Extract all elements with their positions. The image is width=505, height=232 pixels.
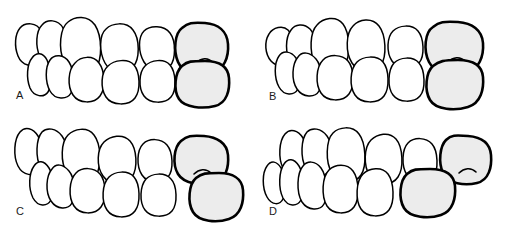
panel-b-drawing — [253, 0, 505, 116]
panel-d-label: D — [269, 206, 277, 217]
lower-tooth-3 — [298, 162, 326, 209]
lower-tooth-5 — [357, 169, 393, 216]
lower-tooth-4 — [351, 57, 388, 102]
lower-shaded-molar — [189, 173, 243, 221]
panel-d: D — [253, 116, 505, 232]
lower-tooth-4 — [103, 172, 139, 217]
lower-tooth-5 — [141, 174, 176, 216]
lower-tooth-5 — [140, 61, 175, 103]
lower-tooth-3 — [70, 169, 105, 213]
panel-c: C — [0, 116, 252, 232]
lower-tooth-4 — [102, 61, 139, 104]
lower-shaded-molar — [175, 61, 229, 108]
panel-b-label: B — [269, 91, 277, 102]
panel-c-drawing — [0, 116, 252, 232]
lower-shaded-molar — [400, 169, 455, 217]
lower-tooth-5 — [389, 58, 424, 101]
lower-tooth-3 — [69, 57, 104, 102]
panel-a-label: A — [16, 90, 24, 101]
lower-tooth-3 — [317, 56, 353, 100]
panel-c-label: C — [16, 206, 24, 217]
panel-d-drawing — [253, 116, 505, 232]
panel-a-drawing — [0, 0, 252, 116]
lower-tooth-4 — [323, 165, 358, 213]
panel-b: B — [253, 0, 505, 116]
lower-shaded-molar — [426, 60, 483, 109]
dental-occlusion-figure: A B — [0, 0, 505, 232]
panel-a: A — [0, 0, 252, 116]
